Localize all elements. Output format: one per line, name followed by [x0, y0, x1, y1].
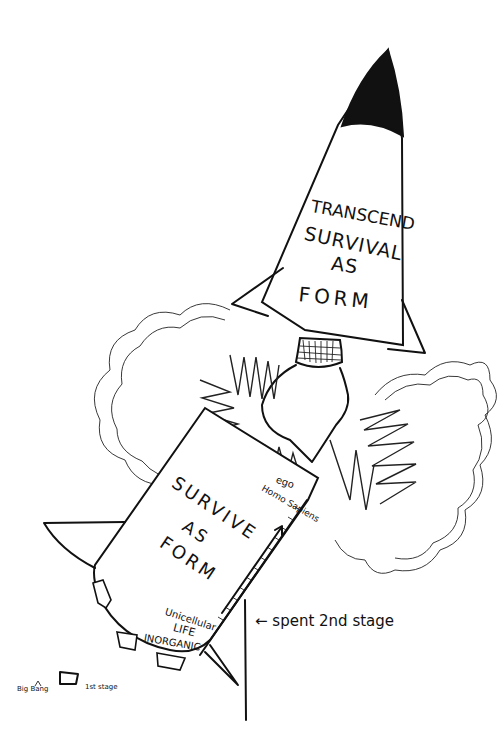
rocket-drawing	[0, 0, 500, 752]
first-stage-icon	[60, 672, 78, 684]
first-stage-label: 1st stage	[85, 683, 118, 691]
exhaust-flame	[262, 365, 348, 462]
spent-stage-annotation: ← spent 2nd stage	[255, 612, 394, 630]
upper-stage-line-3: AS	[330, 252, 360, 278]
big-bang-label: Big Bang	[17, 685, 48, 693]
nose-cone	[342, 50, 403, 136]
lower-bottom-fin	[205, 645, 238, 685]
